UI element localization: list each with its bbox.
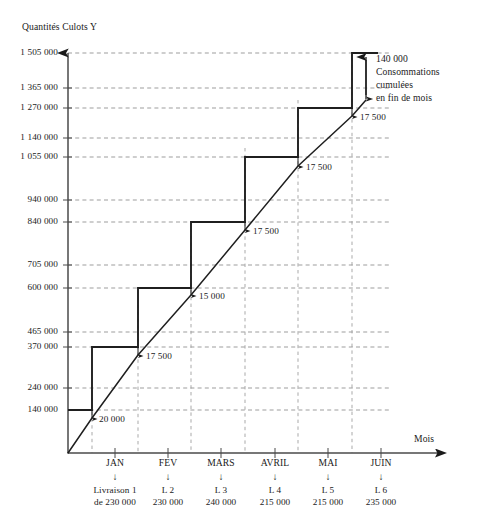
gridlines-horizontal <box>68 53 392 410</box>
callout-140000: 140 000 <box>376 53 408 66</box>
y-axis-title: Quantités Culots Y <box>22 22 97 33</box>
stock-step-curve <box>68 53 378 410</box>
x-tick-label-juin: JUIN <box>341 458 421 469</box>
y-tick-label-1140000: 1 140 000 <box>0 132 58 142</box>
callout-15000: 15 000 <box>199 291 225 301</box>
y-tick-label-1505000: 1 505 000 <box>0 47 58 57</box>
y-tick-label-600000: 600 000 <box>0 282 58 292</box>
y-tick-label-940000: 940 000 <box>0 194 58 204</box>
chart-figure: Quantités Culots Y Mois 1 505 000 1 365 … <box>0 0 486 532</box>
y-tick-label-705000: 705 000 <box>0 259 58 269</box>
y-tick-label-370000: 370 000 <box>0 341 58 351</box>
y-tick-label-1055000: 1 055 000 <box>0 151 58 161</box>
gridlines-vertical <box>92 58 352 453</box>
y-tick-label-140000: 140 000 <box>0 404 58 414</box>
y-tick-label-240000: 240 000 <box>0 382 58 392</box>
cumulative-consumption-line <box>68 100 366 453</box>
y-tick-label-465000: 465 000 <box>0 326 58 336</box>
callout-consommations-line3: en fin de mois <box>376 92 432 105</box>
y-tick-label-840000: 840 000 <box>0 216 58 226</box>
callout-consommations-line1: Consommations <box>376 66 440 79</box>
callout-17500-avril: 17 500 <box>253 226 279 236</box>
down-arrow-icon-juin: ↓ <box>341 471 421 482</box>
callout-17500-juin: 17 500 <box>360 112 386 122</box>
callout-17500-fev: 17 500 <box>146 351 172 361</box>
chart-canvas <box>0 0 486 532</box>
callout-consommations-line2: cumulées <box>376 79 413 92</box>
delivery-amount-juin: 235 000 <box>341 497 421 507</box>
callout-17500-mai: 17 500 <box>306 162 332 172</box>
callout-20000: 20 000 <box>99 414 125 424</box>
y-tick-label-1365000: 1 365 000 <box>0 82 58 92</box>
delivery-label-juin: L 6 <box>341 485 421 495</box>
x-axis-title: Mois <box>414 434 434 445</box>
y-tick-label-1270000: 1 270 000 <box>0 102 58 112</box>
gap-arrows <box>92 108 352 419</box>
